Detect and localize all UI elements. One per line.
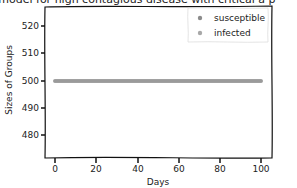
y-tick-500: 500 [22, 76, 39, 86]
x-tick-100: 100 [252, 164, 269, 174]
y-axis: 520 510 500 490 480 Sizes of Groups [4, 21, 45, 140]
x-tick-40: 40 [132, 164, 144, 174]
legend: susceptible infected [188, 8, 269, 43]
y-tick-490: 490 [22, 103, 39, 113]
x-tick-0: 0 [52, 164, 58, 174]
x-tick-20: 20 [90, 164, 102, 174]
x-tick-80: 80 [214, 164, 226, 174]
y-tick-510: 510 [22, 48, 39, 58]
chart-canvas: 520 510 500 490 480 Sizes of Groups 0 20… [0, 0, 297, 188]
legend-label-susceptible: susceptible [214, 13, 266, 23]
x-tick-60: 60 [173, 164, 185, 174]
x-axis-label: Days [147, 177, 170, 187]
y-axis-label: Sizes of Groups [4, 45, 14, 115]
legend-label-infected: infected [214, 28, 251, 38]
legend-marker-susceptible [198, 16, 202, 20]
legend-marker-infected [198, 31, 202, 35]
y-tick-520: 520 [22, 21, 39, 31]
y-tick-480: 480 [22, 130, 39, 140]
x-axis: 0 20 40 60 80 100 Days [52, 158, 270, 187]
